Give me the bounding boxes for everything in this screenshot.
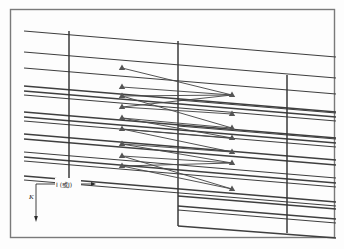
grid-line (24, 31, 336, 57)
axis-label-horizontal: I (或J) (56, 181, 72, 189)
triangle-marker (119, 115, 125, 121)
grid-line-right (178, 226, 336, 238)
figure-page: I (或J) K (0, 0, 344, 249)
axis-label-vertical: K (28, 193, 34, 201)
triangle-marker (229, 111, 235, 117)
triangle-marker (119, 65, 125, 71)
lattice-diagram: I (或J) K (0, 0, 344, 249)
grid-line-group-right (178, 100, 336, 238)
grid-line-right (178, 196, 336, 209)
triangle-marker (119, 93, 125, 99)
triangle-marker (119, 126, 125, 132)
triangle-marker (119, 153, 125, 159)
marker-group-left (119, 65, 125, 169)
grid-line (24, 117, 336, 143)
connection-line (122, 163, 232, 166)
triangle-marker (119, 104, 125, 110)
grid-line (24, 52, 336, 78)
axis-vertical-arrowhead (34, 216, 38, 222)
triangle-marker (119, 84, 125, 90)
marker-group-right (229, 92, 235, 192)
